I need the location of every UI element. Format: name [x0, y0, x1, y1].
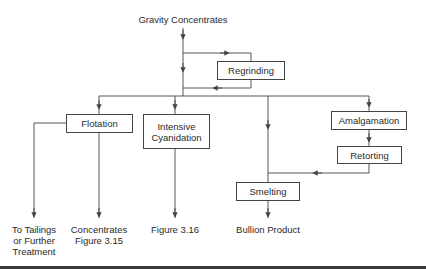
title-gravity-concentrates: Gravity Concentrates [123, 14, 243, 25]
tailings-line-2: or Further [4, 235, 64, 246]
node-amalgamation: Amalgamation [331, 111, 407, 130]
output-cyanidation-ref: Figure 3.16 [140, 224, 210, 235]
node-flotation: Flotation [66, 114, 133, 133]
tailings-line-1: To Tailings [4, 224, 64, 235]
concentrates-line-2: Figure 3.15 [64, 235, 134, 246]
node-retorting: Retorting [337, 146, 402, 164]
tailings-line-3: Treatment [4, 246, 64, 257]
from-regrinding-line [183, 79, 251, 88]
node-regrinding: Regrinding [217, 61, 285, 80]
to-regrinding-line [183, 53, 251, 61]
output-bullion: Bullion Product [228, 224, 308, 235]
output-tailings: To Tailings or Further Treatment [4, 224, 64, 257]
cyanidation-line-1: Intensive [157, 121, 195, 132]
node-smelting: Smelting [236, 182, 300, 201]
node-intensive-cyanidation: Intensive Cyanidation [143, 114, 210, 149]
cyanidation-line-2: Cyanidation [151, 132, 201, 143]
output-concentrates: Concentrates Figure 3.15 [64, 224, 134, 246]
concentrates-line-1: Concentrates [64, 224, 134, 235]
bottom-rule [0, 266, 426, 269]
